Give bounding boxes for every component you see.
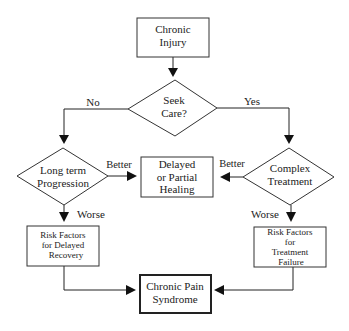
svg-text:Recovery: Recovery [49, 250, 84, 260]
label-better-left: Better [106, 159, 132, 170]
node-complex-treatment: Complex Treatment [243, 148, 334, 205]
arrowhead-icon [59, 212, 69, 222]
node-long-term-progression: Long term Progression [17, 148, 108, 205]
node-risk-treatment-failure: Risk Factors for Treatment Failure [254, 227, 326, 267]
svg-text:Chronic Pain: Chronic Pain [146, 280, 204, 292]
arrowhead-icon [59, 135, 69, 144]
svg-text:Treatment: Treatment [272, 247, 309, 257]
edge-treatment-failure-to-pain [222, 267, 293, 290]
svg-text:Treatment: Treatment [268, 175, 313, 187]
arrowhead-icon [286, 212, 296, 222]
label-worse-left: Worse [77, 208, 105, 220]
svg-text:for: for [285, 237, 296, 247]
label-better-right: Better [219, 158, 245, 169]
svg-text:Failure: Failure [278, 257, 304, 267]
label-worse-right: Worse [251, 208, 279, 220]
svg-text:Syndrome: Syndrome [152, 293, 197, 305]
svg-text:Long term: Long term [40, 164, 87, 176]
svg-text:for Delayed: for Delayed [42, 240, 85, 250]
arrowhead-icon [284, 135, 294, 144]
svg-text:or Partial: or Partial [157, 171, 198, 183]
node-chronic-pain-syndrome: Chronic Pain Syndrome [140, 275, 211, 313]
arrowhead-icon [214, 285, 224, 295]
svg-text:Risk Factors: Risk Factors [267, 227, 313, 237]
arrowhead-icon [126, 285, 136, 295]
svg-text:Seek: Seek [163, 94, 185, 106]
svg-text:Progression: Progression [37, 177, 89, 189]
node-delayed-partial-healing: Delayed or Partial Healing [141, 157, 213, 197]
label-yes: Yes [244, 95, 260, 107]
svg-text:Injury: Injury [160, 36, 187, 48]
edge-delayed-recovery-to-pain [64, 266, 128, 290]
node-chronic-injury: Chronic Injury [137, 18, 209, 57]
arrowhead-icon [127, 171, 137, 181]
arrowhead-icon [168, 68, 178, 77]
svg-text:Healing: Healing [160, 183, 195, 195]
node-seek-care: Seek Care? [128, 80, 217, 136]
svg-text:Care?: Care? [161, 107, 187, 119]
svg-text:Delayed: Delayed [159, 158, 196, 170]
edge-yes [217, 108, 289, 137]
svg-text:Chronic: Chronic [155, 23, 191, 35]
svg-text:Complex: Complex [270, 162, 311, 174]
label-no: No [86, 96, 100, 108]
edge-no [64, 109, 128, 137]
node-risk-delayed-recovery: Risk Factors for Delayed Recovery [27, 226, 99, 266]
flowchart: Chronic Injury Seek Care? Long term Prog… [0, 0, 349, 331]
svg-text:Risk Factors: Risk Factors [40, 230, 86, 240]
arrowhead-icon [220, 172, 230, 182]
